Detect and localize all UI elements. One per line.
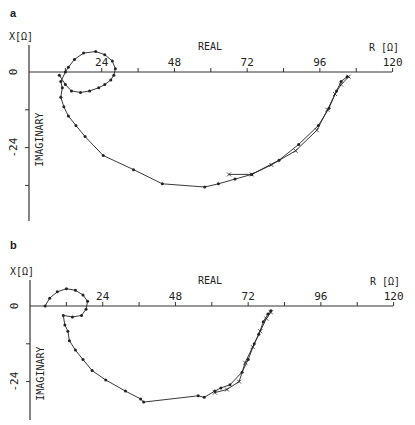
data-point-marker: [56, 290, 59, 293]
y-tick-label: 0: [8, 303, 21, 310]
data-point-marker: [124, 390, 127, 393]
data-point-marker: [48, 297, 51, 300]
x-axis-title: REAL: [198, 275, 222, 286]
nyquist-plot-b: 244872961200-24REALR [Ω]X[Ω]IMAGINARY: [0, 0, 415, 425]
data-point-marker: [85, 308, 88, 311]
x-tick-label: 72: [242, 290, 255, 303]
data-point-x-marker: [237, 380, 241, 384]
y-unit-label: X[Ω]: [10, 266, 34, 277]
data-point-marker: [142, 401, 145, 404]
data-point-marker: [63, 323, 66, 326]
data-point-marker: [44, 305, 47, 308]
data-point-marker: [104, 379, 107, 382]
data-point-marker: [68, 339, 71, 342]
data-point-marker: [80, 314, 83, 317]
data-point-marker: [71, 316, 74, 319]
x-unit-label: R [Ω]: [370, 276, 400, 287]
y-axis-title: IMAGINARY: [35, 347, 46, 401]
x-tick-label: 96: [314, 290, 327, 303]
data-point-marker: [66, 330, 69, 333]
data-point-marker: [91, 369, 94, 372]
data-point-marker: [86, 300, 89, 303]
data-point-marker: [65, 287, 68, 290]
data-point-marker: [197, 394, 200, 397]
data-point-marker: [74, 349, 77, 352]
data-point-marker: [219, 386, 222, 389]
x-tick-label: 120: [384, 290, 404, 303]
y-tick-label: -24: [8, 371, 21, 391]
x-tick-label: 24: [96, 290, 110, 303]
data-point-marker: [139, 397, 142, 400]
data-point-marker: [203, 396, 206, 399]
data-point-marker: [74, 289, 77, 292]
data-point-marker: [62, 314, 65, 317]
data-point-marker: [82, 293, 85, 296]
data-point-marker: [228, 383, 231, 386]
x-tick-label: 48: [169, 290, 182, 303]
data-point-marker: [82, 358, 85, 361]
